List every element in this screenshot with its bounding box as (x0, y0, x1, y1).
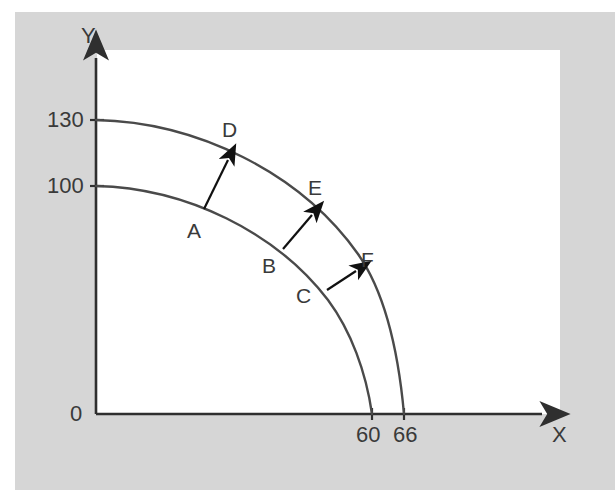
curve-label-e: E (308, 177, 322, 198)
arrow-b-to-e (283, 215, 312, 249)
origin-label: 0 (70, 403, 82, 425)
curve-label-c: C (296, 285, 311, 306)
curve-label-b: B (262, 255, 276, 276)
arrow-c-to-f (327, 271, 356, 290)
curve-label-d: D (222, 119, 237, 140)
outer-curve (96, 120, 404, 414)
y-tick-label-130: 130 (47, 109, 84, 131)
curve-label-a: A (187, 220, 201, 241)
y-tick-label-100: 100 (47, 175, 84, 197)
curve-label-f: F (361, 249, 374, 270)
x-tick-label-66: 66 (393, 424, 417, 446)
y-axis-label: Y (81, 25, 96, 47)
x-axis-label: X (552, 424, 567, 446)
arrow-a-to-d (204, 160, 228, 209)
figure-canvas: Y X 130 100 0 60 66 A B C D E F (0, 0, 615, 490)
x-tick-label-60: 60 (356, 424, 380, 446)
chart-graphics (0, 0, 615, 490)
